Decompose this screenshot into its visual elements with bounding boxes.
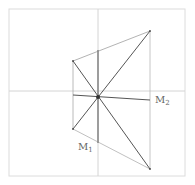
label-m2: M2 — [155, 94, 170, 107]
vertex-bottom-right — [149, 168, 151, 170]
horizontal-segment — [73, 95, 150, 100]
geometry-diagram: M2 M1 — [0, 0, 195, 185]
center-point — [96, 95, 100, 99]
outer-frame — [9, 9, 185, 176]
vertex-left-bottom — [72, 128, 74, 130]
vertex-left-top — [72, 60, 74, 62]
vertex-top-right — [149, 30, 151, 32]
label-m1: M1 — [78, 141, 93, 154]
